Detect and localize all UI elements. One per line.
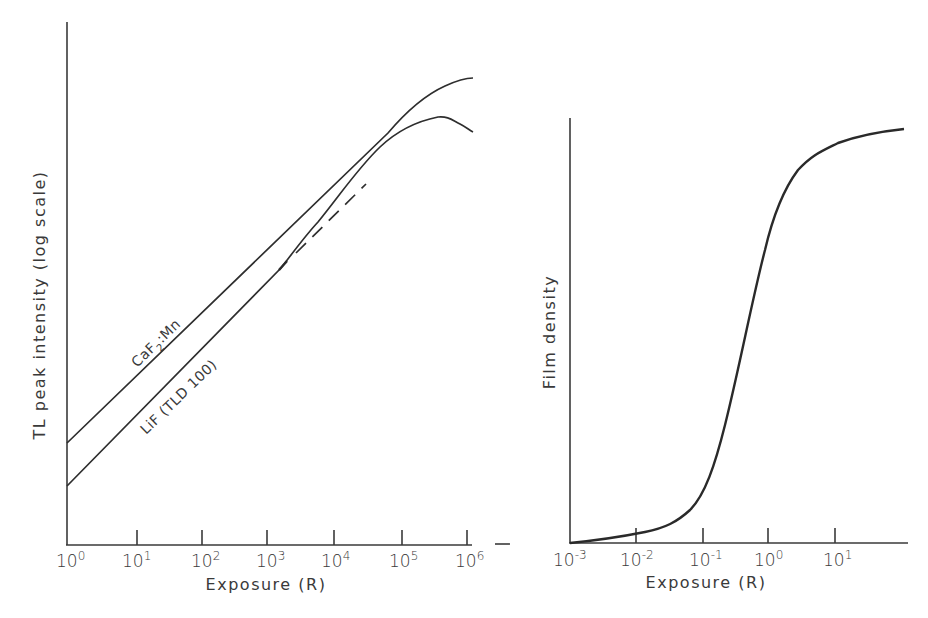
left-x-tick-labels: 100 101 102 103 104 105 106 (56, 549, 484, 571)
right-x-ticks (636, 528, 835, 543)
lif-linear-extrapolation (296, 184, 366, 253)
film-density-chart: 10-3 10-2 10-1 100 101 Exposure (R) Film… (540, 118, 908, 592)
lif-tld100-curve (67, 117, 473, 486)
right-x-axis-title: Exposure (R) (646, 573, 767, 592)
left-y-axis-title: TL peak intensity (log scale) (30, 170, 49, 440)
film-density-curve (570, 129, 904, 543)
tick-label: 10-1 (689, 548, 723, 570)
left-x-axis-title: Exposure (R) (206, 575, 327, 594)
tick-label: 101 (823, 548, 852, 570)
tick-label: 105 (389, 549, 418, 571)
right-y-axis-title: Film density (540, 275, 559, 389)
right-x-tick-labels: 10-3 10-2 10-1 100 101 (553, 548, 852, 570)
caf2-mn-label: CaF2:Mn (128, 316, 186, 373)
tick-label: 10-3 (553, 548, 587, 570)
caf2-mn-curve (67, 78, 473, 443)
tick-label: 106 (455, 549, 484, 571)
tick-label: 100 (56, 549, 85, 571)
lif-kink (279, 261, 287, 270)
tick-label: 101 (122, 549, 151, 571)
tick-label: 100 (754, 548, 783, 570)
tick-label: 103 (256, 549, 285, 571)
tick-label: 10-2 (620, 548, 654, 570)
tick-label: 104 (321, 549, 350, 571)
figure: 100 101 102 103 104 105 106 Exposure (R)… (0, 0, 928, 618)
left-x-ticks (137, 530, 467, 545)
tl-chart: 100 101 102 103 104 105 106 Exposure (R)… (30, 22, 510, 594)
tick-label: 102 (191, 549, 220, 571)
lif-tld100-label: LiF (TLD 100) (137, 356, 220, 437)
